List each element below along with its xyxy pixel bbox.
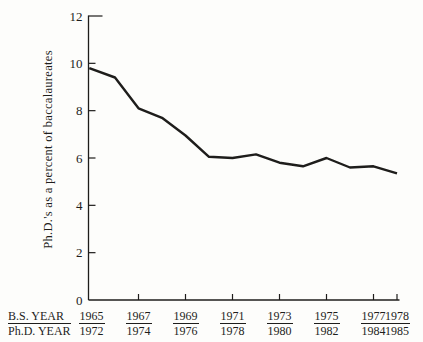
x-axis-legend-fraction: B.S. YEAR Ph.D. YEAR [8,310,71,338]
x-tick-phd-year: 1984 [361,324,387,338]
x-tick-label-fraction: 19691976 [173,310,199,338]
x-tick-phd-year: 1980 [267,324,293,338]
x-tick-bs-year: 1969 [173,310,199,324]
x-tick-bs-year: 1967 [126,310,152,324]
x-tick-phd-year: 1972 [79,324,105,338]
x-tick-label-fraction: 19731980 [267,310,293,338]
x-tick-label-fraction: 19671974 [126,310,152,338]
x-tick-bs-year: 1973 [267,310,293,324]
y-axis-label: Ph.D.'s as a percent of baccalaureates [41,39,56,261]
x-tick-phd-year: 1978 [220,324,246,338]
x-tick-phd-year: 1982 [314,324,340,338]
x-axis-legend-bs-year: B.S. YEAR [8,310,71,324]
x-tick-phd-year: 1976 [173,324,199,338]
x-tick-label-fraction: 19781985 [384,310,410,338]
phd-percent-line-chart-figure: Ph.D.'s as a percent of baccalaureates B… [0,0,423,342]
y-tick-label: 6 [45,151,83,166]
y-tick-label: 0 [45,293,83,308]
x-tick-phd-year: 1985 [384,324,410,338]
x-tick-bs-year: 1971 [220,310,246,324]
y-tick-label: 4 [45,198,83,213]
data-line [89,68,397,173]
y-tick-label: 10 [45,56,83,71]
x-tick-label-fraction: 19651972 [79,310,105,338]
x-tick-label-fraction: 19751982 [314,310,340,338]
x-tick-bs-year: 1978 [384,310,410,324]
x-tick-bs-year: 1975 [314,310,340,324]
x-tick-phd-year: 1974 [126,324,152,338]
x-axis-legend-phd-year: Ph.D. YEAR [8,324,71,338]
y-tick-label: 2 [45,245,83,260]
x-tick-label-fraction: 19711978 [220,310,246,338]
line-chart-canvas [0,0,423,342]
y-tick-label: 12 [45,9,83,24]
x-tick-label-fraction: 19771984 [361,310,387,338]
y-tick-label: 8 [45,103,83,118]
x-tick-bs-year: 1965 [79,310,105,324]
x-tick-bs-year: 1977 [361,310,387,324]
